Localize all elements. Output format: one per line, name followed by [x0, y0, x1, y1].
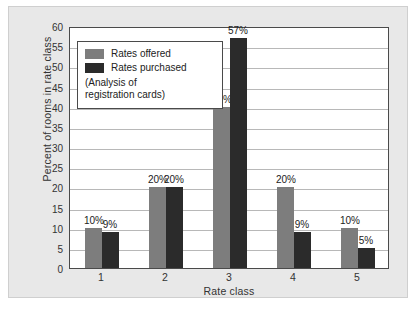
- legend-item-rates-offered: Rates offered: [85, 48, 215, 59]
- bar-purchased: [358, 248, 375, 268]
- x-axis-tick-label: 1: [81, 271, 121, 283]
- bar-value-label: 57%: [218, 25, 258, 36]
- x-axis-tick-label: 2: [145, 271, 185, 283]
- bar-purchased: [294, 232, 311, 268]
- chart-legend: Rates offered Rates purchased (Analysis …: [77, 41, 223, 109]
- bar-purchased: [102, 232, 119, 268]
- legend-item-rates-purchased: Rates purchased: [85, 62, 215, 73]
- bar-purchased: [166, 187, 183, 268]
- bar-value-label: 9%: [90, 219, 130, 230]
- legend-label-purchased: Rates purchased: [111, 62, 187, 73]
- y-axis-tick-label: 50: [29, 62, 63, 73]
- legend-swatch-offered-icon: [85, 49, 104, 59]
- y-axis-tick-label: 10: [29, 223, 63, 234]
- legend-note-line-2: registration cards): [85, 89, 215, 101]
- bar-group: 20%9%: [277, 28, 310, 268]
- y-axis-tick-label: 15: [29, 203, 63, 214]
- figure-panel: Percent of rooms in rate class Rate clas…: [8, 6, 408, 298]
- bar-offered: [149, 187, 166, 268]
- x-axis-tick-label: 5: [337, 271, 377, 283]
- y-axis-tick-label: 0: [29, 264, 63, 275]
- legend-note-line-1: (Analysis of: [85, 77, 215, 89]
- bar-value-label: 5%: [346, 235, 386, 246]
- bar-purchased: [230, 38, 247, 268]
- y-axis-tick-label: 45: [29, 82, 63, 93]
- x-axis-tick-label: 4: [273, 271, 313, 283]
- bar-group: 10%5%: [341, 28, 374, 268]
- x-axis-title: Rate class: [69, 285, 389, 297]
- y-axis-tick-label: 35: [29, 122, 63, 133]
- bar-offered: [85, 228, 102, 268]
- bar-offered: [213, 107, 230, 268]
- y-axis-tick-label: 55: [29, 42, 63, 53]
- y-axis-tick-label: 5: [29, 243, 63, 254]
- legend-note: (Analysis of registration cards): [85, 77, 215, 101]
- y-axis-tick-label: 60: [29, 22, 63, 33]
- bar-value-label: 10%: [330, 215, 370, 226]
- x-axis-tick-label: 3: [209, 271, 249, 283]
- bar-value-label: 20%: [266, 174, 306, 185]
- chart-screenshot: Percent of rooms in rate class Rate clas…: [0, 0, 418, 312]
- y-axis-tick-label: 20: [29, 183, 63, 194]
- legend-swatch-purchased-icon: [85, 63, 104, 73]
- y-axis-tick-label: 30: [29, 143, 63, 154]
- bar-value-label: 9%: [282, 219, 322, 230]
- bar-offered: [341, 228, 358, 268]
- legend-label-offered: Rates offered: [111, 48, 171, 59]
- y-axis-tick-label: 40: [29, 102, 63, 113]
- y-axis-tick-label: 25: [29, 163, 63, 174]
- bar-value-label: 20%: [154, 174, 194, 185]
